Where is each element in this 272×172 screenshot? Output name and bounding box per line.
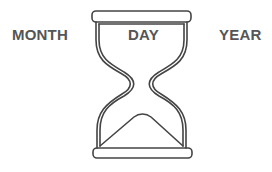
- day-label: DAY: [128, 26, 159, 43]
- month-label: MONTH: [12, 26, 68, 43]
- year-label: YEAR: [219, 26, 261, 43]
